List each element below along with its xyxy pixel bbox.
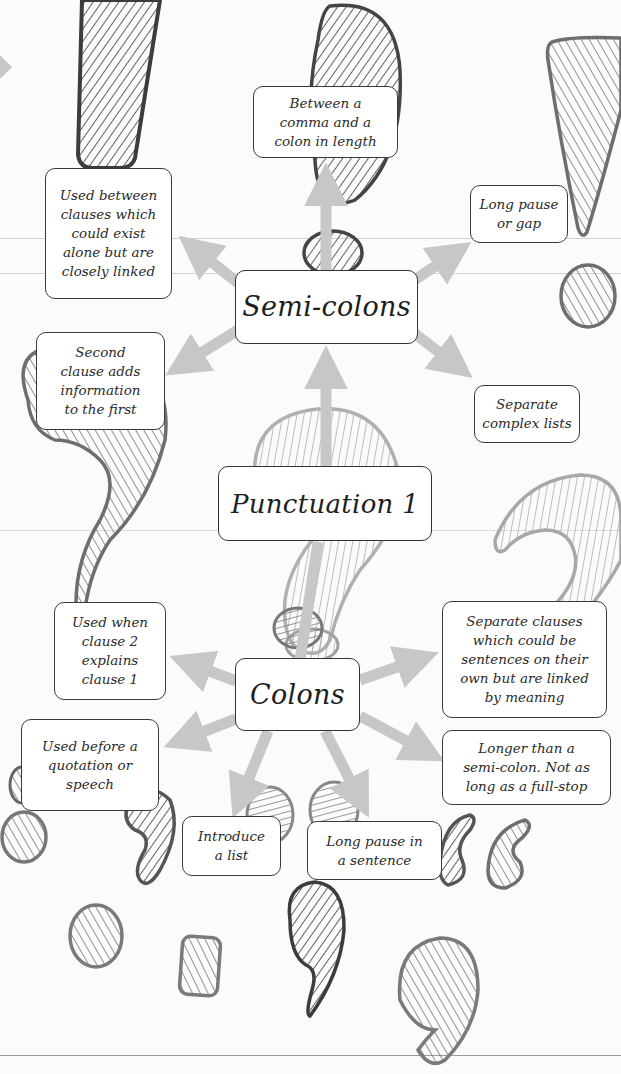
fact-box-semicolons-pause: Long pause or gap (470, 185, 568, 243)
arrow-semicolons-clauses (194, 248, 238, 283)
fact-box-colons-separate-clauses: Separate clauses which could be sentence… (442, 601, 607, 718)
fact-box-colons-pause: Long pause in a sentence (307, 821, 442, 880)
arrow-colons-list (240, 731, 268, 800)
fact-line: Used before a (42, 737, 138, 756)
fact-line: to the first (60, 400, 140, 419)
fact-line: clause 1 (72, 670, 148, 689)
hub-label: Semi-colons (242, 292, 411, 322)
hub-semicolons: Semi-colons (235, 270, 418, 344)
fact-box-semicolons-adds-info: Second clause adds information to the fi… (36, 332, 165, 430)
arrow-colons-pause (325, 731, 360, 800)
fact-line: Used when (72, 613, 148, 632)
fact-line: a list (198, 846, 265, 865)
fact-line: Introduce (198, 827, 265, 846)
fact-line: or gap (479, 214, 558, 233)
arrow-colons-explains (188, 663, 236, 681)
fact-line: information (60, 381, 140, 400)
arrow-center-colons (300, 542, 318, 660)
fact-line: Second (60, 343, 140, 362)
fact-line: which could be (460, 631, 589, 650)
hub-colons: Colons (235, 658, 360, 731)
arrow-colons-quotation (182, 719, 236, 740)
fact-line: Between a (274, 94, 376, 113)
fact-line: clause adds (60, 362, 140, 381)
fact-line: comma and a (274, 113, 376, 132)
fact-line: clauses which (60, 205, 158, 224)
arrow-semicolons-adds-info (182, 330, 238, 365)
fact-box-colons-explains: Used when clause 2 explains clause 1 (54, 602, 166, 700)
fact-line: Longer than a (463, 739, 590, 758)
fact-box-semicolons-clauses: Used between clauses which could exist a… (45, 168, 172, 299)
arrow-colons-separate (360, 659, 420, 680)
hub-punctuation: Punctuation 1 (218, 466, 432, 541)
fact-line: explains (72, 651, 148, 670)
fact-line: colon in length (274, 132, 376, 151)
fact-line: Separate clauses (460, 612, 589, 631)
fact-line: Long pause in (326, 832, 422, 851)
fact-line: by meaning (460, 688, 589, 707)
fact-box-colons-quotation: Used before a quotation or speech (21, 719, 159, 811)
fact-line: quotation or (42, 756, 138, 775)
fact-line: speech (42, 775, 138, 794)
fact-line: Used between (60, 186, 158, 205)
fact-line: Separate (482, 395, 571, 414)
fact-line: a sentence (326, 851, 422, 870)
fact-box-colons-list: Introduce a list (182, 816, 281, 876)
fact-line: semi-colon. Not as (463, 758, 590, 777)
page-title: Punctuation 1 (231, 489, 419, 519)
fact-box-semicolons-length: Between a comma and a colon in length (253, 86, 398, 158)
fact-line: complex lists (482, 414, 571, 433)
arrow-colons-longer (360, 716, 427, 752)
fact-line: clause 2 (72, 632, 148, 651)
fact-line: could exist (60, 224, 158, 243)
fact-box-semicolons-lists: Separate complex lists (474, 385, 580, 443)
fact-line: long as a full-stop (463, 777, 590, 796)
fact-line: Long pause (479, 195, 558, 214)
fact-line: sentences on their (460, 650, 589, 669)
fact-box-colons-longer: Longer than a semi-colon. Not as long as… (442, 730, 611, 805)
fact-line: own but are linked (460, 669, 589, 688)
fact-line: alone but are (60, 243, 158, 262)
fact-line: closely linked (60, 262, 158, 281)
hub-label: Colons (250, 680, 345, 710)
